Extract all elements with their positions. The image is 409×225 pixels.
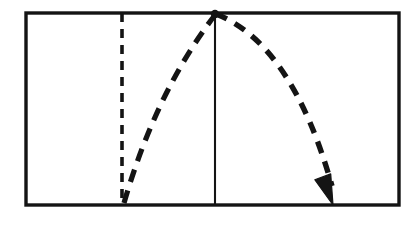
figure-container [0,0,409,225]
apex-junction-blob [211,10,219,18]
trajectory-figure [0,0,409,225]
